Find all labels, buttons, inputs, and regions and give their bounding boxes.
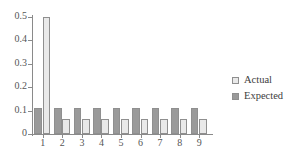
y-axis-tick-label: 0.5 (1, 11, 27, 21)
legend-label: Actual (244, 75, 272, 86)
bar-expected (152, 108, 160, 134)
bar-group (170, 17, 190, 134)
bar-expected (132, 108, 140, 134)
legend-swatch-icon (232, 77, 239, 84)
y-axis-tick-label: 0.1 (1, 105, 27, 115)
x-axis-tick-label: 3 (72, 138, 92, 148)
bar-group (150, 17, 170, 134)
bar-group (92, 17, 112, 134)
x-axis-tick-label: 6 (131, 138, 151, 148)
x-axis-tick-label: 9 (189, 138, 209, 148)
bar-actual (160, 119, 168, 134)
bar-expected (171, 108, 179, 134)
bar-group (72, 17, 92, 134)
plot-area (33, 17, 209, 134)
bar-actual (62, 119, 70, 134)
bar-actual (121, 119, 129, 134)
bar-expected (54, 108, 62, 134)
x-axis-tick-label: 5 (111, 138, 131, 148)
bar-group (53, 17, 73, 134)
x-axis-line (32, 134, 213, 135)
bar-expected (93, 108, 101, 134)
bar-actual (180, 119, 188, 134)
bar-actual (141, 119, 149, 134)
legend-item[interactable]: Expected (232, 89, 302, 103)
bar-expected (34, 108, 42, 134)
y-axis-tick-label: 0.2 (1, 81, 27, 91)
legend-item[interactable]: Actual (232, 73, 302, 87)
bar-actual (82, 119, 90, 134)
y-axis-labels: 00.10.20.30.40.5 (0, 0, 27, 157)
bar-group (131, 17, 151, 134)
x-axis-tick-label: 4 (92, 138, 112, 148)
bar-actual (199, 119, 207, 134)
x-axis-labels: 123456789 (33, 138, 209, 152)
y-axis-tick-label: 0 (1, 128, 27, 138)
x-axis-tick-label: 8 (170, 138, 190, 148)
x-axis-tick-label: 2 (53, 138, 73, 148)
bar-group (189, 17, 209, 134)
y-axis-tick-label: 0.3 (1, 58, 27, 68)
bar-actual (43, 17, 51, 134)
bar-expected (113, 108, 121, 134)
chart-legend: ActualExpected (232, 73, 302, 105)
bar-actual (101, 119, 109, 134)
legend-label: Expected (244, 91, 283, 102)
bar-chart: 00.10.20.30.40.5 123456789 ActualExpecte… (0, 0, 304, 157)
x-axis-tick-label: 1 (33, 138, 53, 148)
y-axis-tick-label: 0.4 (1, 34, 27, 44)
bar-group (33, 17, 53, 134)
bar-group (111, 17, 131, 134)
bar-expected (74, 108, 82, 134)
x-axis-tick-label: 7 (150, 138, 170, 148)
bar-expected (191, 108, 199, 134)
legend-swatch-icon (232, 93, 239, 100)
